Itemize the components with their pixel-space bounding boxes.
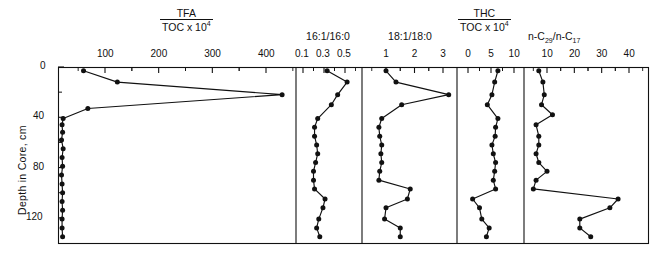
- data-point: [607, 205, 612, 210]
- x-tick-label-nc29nc17-30: 30: [596, 48, 607, 59]
- series-nc29nc17: [531, 68, 621, 239]
- x-tick-label-thc-10: 10: [509, 48, 520, 59]
- panel-title-16-1-16-0: 16:1/16:0: [295, 30, 361, 42]
- figure-root: Depth in Core, cm TFA TOC x 104 16:1/16:…: [0, 0, 655, 263]
- data-point: [60, 234, 65, 239]
- data-point: [317, 234, 322, 239]
- x-tick-label-thc-5: 5: [488, 48, 494, 59]
- data-point: [376, 125, 381, 130]
- x-tick-label-nc29nc17-20: 20: [569, 48, 580, 59]
- data-point: [398, 225, 403, 230]
- panel-title-tfa-exponent: 4: [207, 20, 211, 27]
- data-point: [542, 92, 547, 97]
- data-point: [405, 197, 410, 202]
- data-point: [59, 173, 64, 178]
- x-tick-label-ratio1616-0.1: 0.1: [295, 48, 309, 59]
- data-point: [485, 102, 490, 107]
- nc17-subscript: 17: [573, 37, 581, 44]
- panel-title-thc-numerator: THC: [458, 8, 511, 20]
- data-point: [60, 208, 65, 213]
- data-point: [379, 142, 384, 147]
- data-point: [491, 151, 496, 156]
- x-tick-label-ratio1818-2: 2: [412, 48, 418, 59]
- data-point: [493, 134, 498, 139]
- data-point: [534, 178, 539, 183]
- data-point: [540, 80, 545, 85]
- nc29-prefix: n-C: [528, 30, 545, 42]
- panel-title-thc-denominator: TOC x 10: [460, 21, 505, 33]
- data-point: [85, 106, 90, 111]
- x-tick-label-tfa-400: 400: [258, 48, 275, 59]
- panel-title-nc29-nc17: n-C29/n-C17: [528, 30, 580, 44]
- data-point: [384, 205, 389, 210]
- chart-frame: [59, 68, 649, 244]
- data-point: [59, 137, 64, 142]
- nc29-subscript: 29: [545, 37, 553, 44]
- data-point: [323, 197, 328, 202]
- data-point: [577, 225, 582, 230]
- data-point: [315, 116, 320, 121]
- series-line-ratio1818: [379, 71, 449, 237]
- data-point: [60, 181, 65, 186]
- data-point: [531, 186, 536, 191]
- data-point: [325, 68, 330, 73]
- data-point: [312, 125, 317, 130]
- data-point: [312, 186, 317, 191]
- y-tick-label-80: 80: [33, 161, 44, 172]
- x-tick-label-ratio1818-3: 3: [440, 48, 446, 59]
- data-point: [536, 160, 541, 165]
- data-point: [577, 217, 582, 222]
- data-point: [379, 116, 384, 121]
- data-point: [491, 178, 496, 183]
- data-point: [60, 122, 65, 127]
- data-point: [492, 169, 497, 174]
- data-point: [493, 125, 498, 130]
- data-point: [495, 68, 500, 73]
- y-tick-label-120: 120: [26, 211, 43, 222]
- data-point: [399, 102, 404, 107]
- data-point: [61, 146, 66, 151]
- data-point: [588, 234, 593, 239]
- data-point: [493, 160, 498, 165]
- data-point: [477, 205, 482, 210]
- panel-title-18-1-18-0: 18:1/18:0: [370, 30, 450, 42]
- x-tick-label-tfa-200: 200: [151, 48, 168, 59]
- data-point: [384, 68, 389, 73]
- data-point: [60, 190, 65, 195]
- data-point: [60, 225, 65, 230]
- x-tick-label-ratio1818-1: 1: [383, 48, 389, 59]
- series-line-tfa: [62, 71, 283, 237]
- data-point: [545, 169, 550, 174]
- data-point: [393, 80, 398, 85]
- data-point: [314, 142, 319, 147]
- data-point: [616, 197, 621, 202]
- data-point: [335, 92, 340, 97]
- data-point: [312, 134, 317, 139]
- data-point: [311, 169, 316, 174]
- data-point: [484, 234, 489, 239]
- data-point: [536, 142, 541, 147]
- series-ratio1616: [311, 68, 350, 239]
- series-thc: [470, 68, 500, 239]
- data-point: [315, 151, 320, 156]
- data-point: [446, 92, 451, 97]
- data-point: [487, 225, 492, 230]
- data-point: [470, 197, 475, 202]
- data-point: [489, 92, 494, 97]
- data-point: [408, 186, 413, 191]
- x-tick-label-nc29nc17-10: 10: [542, 48, 553, 59]
- panel-title-thc-exponent: 4: [505, 20, 509, 27]
- data-point: [60, 155, 65, 160]
- data-point: [377, 169, 382, 174]
- data-point: [376, 178, 381, 183]
- x-tick-label-tfa-100: 100: [97, 48, 114, 59]
- data-point: [311, 178, 316, 183]
- nc17-mid: /n-C: [553, 30, 573, 42]
- data-point: [492, 80, 497, 85]
- series-tfa: [59, 68, 285, 239]
- data-point: [60, 217, 65, 222]
- data-point: [60, 199, 65, 204]
- data-point: [115, 80, 120, 85]
- panel-title-tfa: TFA TOC x 104: [160, 8, 213, 33]
- y-axis-label: Depth in Core, cm: [16, 125, 28, 215]
